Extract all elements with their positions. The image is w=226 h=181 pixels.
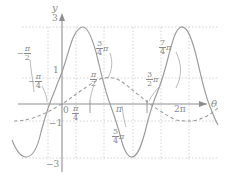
pi-suffix: π bbox=[166, 43, 171, 52]
fraction-numerator: π bbox=[72, 105, 79, 113]
fraction-pi-over-2: π 2 bbox=[24, 45, 31, 62]
annotation-neg-pi-over-4: − π 4 bbox=[28, 73, 42, 90]
pi-suffix: π bbox=[153, 75, 158, 84]
x-tick-pi-over-4: π 4 bbox=[72, 105, 79, 122]
fraction-pi-over-2-pos: π 2 bbox=[90, 71, 97, 88]
x-axis-arrowhead bbox=[199, 101, 207, 107]
y-tick-3: 3 bbox=[52, 14, 58, 23]
annotation-3pi-over-4: 3 4 π bbox=[96, 40, 108, 57]
minus-sign: − bbox=[17, 49, 24, 58]
origin-label: 0 bbox=[63, 106, 69, 115]
leader-neg-pi-4 bbox=[42, 86, 47, 102]
fraction-pi-over-4-neg: π 4 bbox=[35, 73, 42, 90]
fraction-numerator: π bbox=[35, 73, 42, 81]
axes bbox=[18, 16, 207, 172]
annotation-7pi-over-4: 7 4 π bbox=[159, 39, 171, 56]
fraction-denominator: 2 bbox=[24, 53, 31, 62]
annotation-neg-pi-over-2: − π 2 bbox=[17, 45, 31, 62]
y-tick-neg3: −3 bbox=[46, 160, 59, 169]
pi-suffix: π bbox=[103, 44, 108, 53]
curve-dashed-sintheta bbox=[14, 78, 219, 121]
y-axis-label: y bbox=[52, 3, 58, 13]
y-tick-neg1: −1 bbox=[49, 119, 62, 128]
graph-canvas bbox=[0, 0, 226, 181]
annotation-pi-over-2: π 2 bbox=[90, 71, 97, 88]
annotation-3pi-over-2: 3 2 π bbox=[146, 71, 158, 88]
y-tick-1: 1 bbox=[53, 66, 59, 75]
leader-5pi-4 bbox=[122, 106, 126, 127]
theta-axis-label: θ bbox=[211, 99, 217, 109]
trig-graph-figure: y θ 3 1 −1 −3 0 π 4 π 2π − π 2 − π 4 3 4… bbox=[0, 0, 226, 181]
y-axis-arrowhead bbox=[59, 13, 65, 21]
fraction-numerator: π bbox=[90, 71, 97, 79]
fraction-denominator: 4 bbox=[35, 81, 42, 90]
fraction-numerator: π bbox=[24, 45, 31, 53]
fraction-denominator: 4 bbox=[72, 113, 79, 122]
fraction-pi-over-4: π 4 bbox=[72, 105, 79, 122]
leader-3pi-4 bbox=[108, 53, 112, 78]
x-tick-pi: π bbox=[116, 105, 122, 114]
pi-suffix: π bbox=[119, 132, 124, 141]
fraction-denominator: 2 bbox=[90, 79, 97, 88]
annotation-5pi-over-4: 5 4 π bbox=[112, 128, 124, 145]
leader-7pi-4 bbox=[176, 52, 181, 88]
minus-sign: − bbox=[28, 77, 35, 86]
x-tick-2pi: 2π bbox=[174, 105, 186, 114]
